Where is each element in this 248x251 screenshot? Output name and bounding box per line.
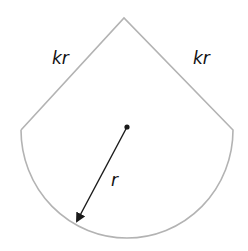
radius-label: r bbox=[111, 170, 119, 190]
left-side-label: kr bbox=[52, 48, 70, 68]
radius-arrow bbox=[77, 127, 127, 221]
right-side-label: kr bbox=[193, 48, 211, 68]
sector-diagram: kr kr r bbox=[0, 0, 248, 251]
